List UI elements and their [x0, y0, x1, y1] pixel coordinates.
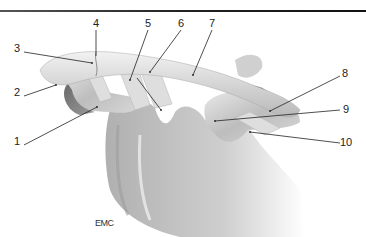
label-6: 6	[178, 18, 184, 29]
posterior-bone	[235, 55, 262, 78]
label-10: 10	[340, 137, 352, 148]
label-1: 1	[14, 136, 20, 147]
label-5: 5	[145, 18, 151, 29]
credit-emc: EMC	[95, 218, 114, 228]
shoulder-illustration	[0, 0, 366, 237]
label-9: 9	[343, 104, 349, 115]
label-2: 2	[14, 87, 20, 98]
label-7: 7	[209, 18, 215, 29]
label-4: 4	[93, 18, 99, 29]
label-8: 8	[342, 68, 348, 79]
label-3: 3	[14, 43, 20, 54]
